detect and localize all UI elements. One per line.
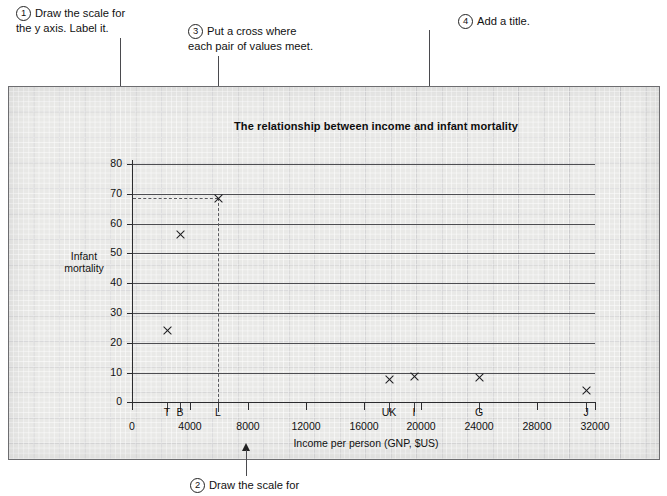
annotation-2-number: 2 — [190, 478, 205, 493]
annotation-4-line1: Add a title. — [477, 15, 530, 27]
annotation-2-line1: Draw the scale for — [209, 479, 299, 491]
annotation-1-number: 1 — [16, 6, 31, 21]
annotation-2-leader-line — [246, 450, 247, 476]
annotation-2: 2Draw the scale for — [190, 478, 410, 493]
annotation-4-number: 4 — [458, 14, 473, 29]
worksheet-figure: 1Draw the scale for the y axis. Label it… — [0, 0, 667, 496]
annotation-3-line1: Put a cross where — [207, 25, 297, 37]
annotation-4: 4Add a title. — [458, 14, 608, 29]
annotation-3-line2: each pair of values meet. — [188, 40, 313, 52]
annotation-3-number: 3 — [188, 24, 203, 39]
annotation-1: 1Draw the scale for the y axis. Label it… — [16, 6, 176, 36]
graph-paper-panel — [8, 86, 660, 460]
annotation-1-line2: the y axis. Label it. — [16, 22, 109, 34]
annotation-1-line1: Draw the scale for — [35, 7, 125, 19]
annotation-3: 3Put a cross where each pair of values m… — [188, 24, 378, 54]
